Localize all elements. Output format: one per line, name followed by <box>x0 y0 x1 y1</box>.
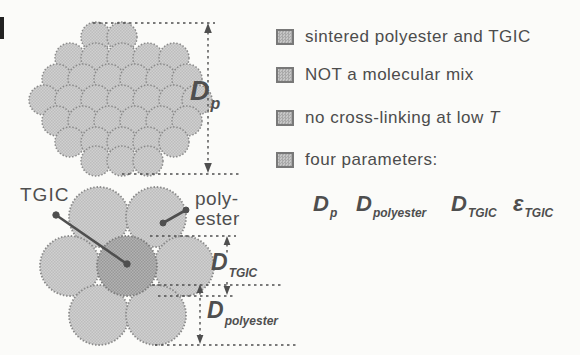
parameter-symbol: D <box>356 191 372 216</box>
square-bullet-icon <box>276 110 294 126</box>
polyester-callout-label: poly- ester <box>195 189 240 229</box>
parameter-symbol: D <box>313 191 329 216</box>
bullet-text: no cross-linking at low <box>305 108 489 127</box>
square-bullet-icon <box>276 152 294 168</box>
d-tgic-label-symbol: D <box>211 249 228 275</box>
parameter-subscript: TGIC <box>468 206 497 220</box>
d-polyester-label: Dpolyester <box>207 297 278 324</box>
particle-circle <box>159 127 189 157</box>
bullet-text: four parameters: <box>305 150 438 169</box>
square-bullet-icon <box>276 29 294 45</box>
parameter-symbol: D <box>451 191 467 216</box>
parameter-subscript: polyester <box>373 206 426 220</box>
parameter-subscript: TGIC <box>525 206 554 220</box>
particle-diagram <box>0 0 580 355</box>
bullet-item-four-parameters: four parameters: <box>276 150 438 170</box>
dp-label: Dp <box>190 76 220 107</box>
parameter-symbol: ε <box>513 191 524 216</box>
bullet-item-sintered: sintered polyester and TGIC <box>276 27 531 47</box>
bullet-item-no-crosslinking: no cross-linking at low T <box>276 108 500 128</box>
parameter-subscript: p <box>330 206 337 220</box>
bullet-text-italic: T <box>489 108 500 127</box>
bullet-item-not-molecular: NOT a molecular mix <box>276 65 474 85</box>
bullet-text: NOT a molecular mix <box>305 65 474 84</box>
d-polyester-label-subscript: polyester <box>225 314 278 328</box>
parameter-dp: Dp <box>313 191 337 217</box>
sintered-particle-cluster <box>29 22 212 176</box>
slide-figure: Dp TGIC poly- ester DTGIC Dpolyester sin… <box>0 0 580 355</box>
dp-label-symbol: D <box>190 76 210 106</box>
tgic-callout-label: TGIC <box>20 184 69 206</box>
parameter-d-tgic: DTGIC <box>451 191 497 217</box>
particle-circle <box>133 146 163 176</box>
parameter-d-polyester: Dpolyester <box>356 191 426 217</box>
d-polyester-arrowheads <box>197 284 204 344</box>
parameter-epsilon-tgic: εTGIC <box>513 191 553 217</box>
dp-label-subscript: p <box>211 95 221 112</box>
d-polyester-label-symbol: D <box>207 297 224 323</box>
bullet-text: sintered polyester and TGIC <box>305 27 531 46</box>
d-tgic-label: DTGIC <box>211 249 257 276</box>
d-tgic-label-subscript: TGIC <box>229 266 258 280</box>
square-bullet-icon <box>276 67 294 83</box>
